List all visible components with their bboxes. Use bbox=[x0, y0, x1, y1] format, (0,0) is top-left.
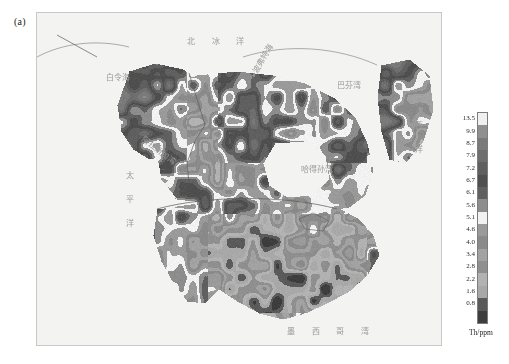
colorbar-tick: 8.7 bbox=[466, 139, 475, 147]
colorbar-swatch bbox=[478, 125, 487, 137]
colorbar-swatch bbox=[478, 298, 487, 310]
colorbar-tick: 6.7 bbox=[466, 176, 475, 184]
colorbar-swatch bbox=[478, 175, 487, 187]
colorbar-swatch bbox=[478, 199, 487, 211]
colorbar-tick: 0.8 bbox=[466, 299, 475, 307]
colorbar-swatch bbox=[478, 224, 487, 236]
colorbar-swatch bbox=[478, 311, 487, 323]
colorbar-tick: 4.0 bbox=[466, 238, 475, 246]
colorbar-swatch bbox=[478, 236, 487, 248]
colorbar-swatch bbox=[478, 212, 487, 224]
colorbar-swatch bbox=[478, 273, 487, 285]
colorbar-tick: 2.2 bbox=[466, 275, 475, 283]
colorbar-tick-labels: 13.59.98.77.97.26.76.15.65.14.64.03.42.8… bbox=[449, 112, 475, 324]
colorbar-swatch bbox=[478, 261, 487, 273]
colorbar-tick: 7.9 bbox=[466, 151, 475, 159]
colorbar-tick: 3.4 bbox=[466, 250, 475, 258]
colorbar-tick: 9.9 bbox=[466, 127, 475, 135]
colorbar-tick: 4.6 bbox=[466, 225, 475, 233]
colorbar-tick: 5.6 bbox=[466, 201, 475, 209]
colorbar-unit-label: Th/ppm bbox=[469, 328, 493, 337]
colorbar-swatch bbox=[478, 286, 487, 298]
colorbar-swatch bbox=[478, 249, 487, 261]
colorbar-tick: 6.1 bbox=[466, 188, 475, 196]
panel-label: (a) bbox=[14, 16, 26, 27]
colorbar-tick: 1.6 bbox=[466, 287, 475, 295]
colorbar-swatch bbox=[478, 187, 487, 199]
colorbar-swatch bbox=[478, 162, 487, 174]
colorbar-tick: 5.1 bbox=[466, 213, 475, 221]
coastline-overlay bbox=[37, 13, 441, 345]
colorbar-swatch bbox=[478, 113, 487, 125]
colorbar-legend: 13.59.98.77.97.26.76.15.65.14.64.03.42.8… bbox=[449, 112, 507, 344]
figure-panel: (a) bbox=[0, 0, 509, 364]
map-canvas: 北 冰 洋 白令海 波弗特海 巴芬湾 阿拉斯加湾 哈得孙湾 太平洋 大西洋 墨 … bbox=[36, 12, 442, 346]
colorbar-tick: 7.2 bbox=[466, 164, 475, 172]
colorbar-tick: 13.5 bbox=[463, 114, 475, 122]
colorbar-swatch bbox=[478, 138, 487, 150]
colorbar-swatch bbox=[478, 150, 487, 162]
colorbar-gradient bbox=[477, 112, 488, 324]
colorbar-tick: 2.8 bbox=[466, 262, 475, 270]
